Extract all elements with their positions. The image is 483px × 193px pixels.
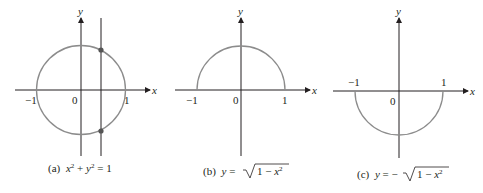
y-axis-label: y — [237, 5, 243, 17]
tick-neg-one: −1 — [348, 76, 360, 88]
svg-text:1 − x2: 1 − x2 — [257, 165, 283, 177]
x-axis-label: x — [151, 84, 157, 96]
y-axis-label: y — [395, 5, 401, 17]
panel-a: x y −1 0 1 (a) x2 + y2 = 1 — [15, 5, 157, 175]
x-axis-label: x — [469, 85, 475, 97]
caption-a: (a) x2 + y2 = 1 — [48, 162, 112, 175]
tick-one: 1 — [441, 76, 447, 88]
tick-one: 1 — [124, 94, 130, 106]
y-axis-label: y — [77, 5, 83, 17]
tick-zero: 0 — [233, 94, 239, 106]
caption-b: (b) y = — [203, 165, 235, 178]
tick-neg-one: −1 — [25, 94, 37, 106]
tick-one: 1 — [282, 94, 288, 106]
intersection-point-top — [98, 47, 103, 52]
tick-neg-one: −1 — [186, 94, 198, 106]
tick-zero: 0 — [390, 95, 396, 107]
x-axis-label: x — [311, 84, 317, 96]
svg-text:1 − x2: 1 − x2 — [417, 168, 443, 180]
panel-c: x y −1 0 1 (c) y = − 1 − x2 — [333, 5, 475, 181]
intersection-point-bottom — [98, 128, 103, 133]
figure-canvas: x y −1 0 1 (a) x2 + y2 = 1 x y −1 0 1 (b… — [0, 0, 483, 193]
panel-b: x y −1 0 1 (b) y = 1 − x2 — [175, 5, 317, 178]
tick-zero: 0 — [72, 94, 78, 106]
caption-c: (c) y = − — [357, 168, 398, 181]
